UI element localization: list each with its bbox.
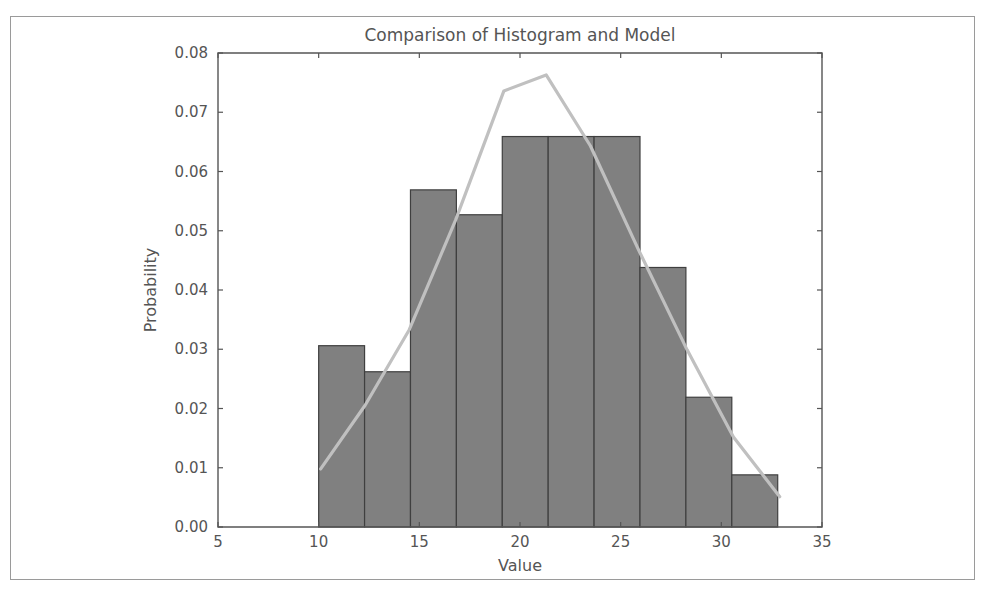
histogram-bars [319, 137, 778, 527]
x-tick-label: 35 [812, 533, 831, 551]
histogram-bar [548, 137, 594, 527]
x-tick-label: 20 [510, 533, 529, 551]
y-tick-label: 0.02 [175, 400, 208, 418]
histogram-bar [594, 137, 640, 527]
histogram-bar [410, 190, 456, 527]
histogram-bar [456, 215, 502, 527]
y-tick-label: 0.06 [175, 163, 208, 181]
y-tick-label: 0.04 [175, 281, 208, 299]
x-tick-label: 5 [213, 533, 223, 551]
y-tick-label: 0.01 [175, 459, 208, 477]
chart-plot-area: 51015202530350.000.010.020.030.040.050.0… [0, 0, 985, 593]
y-tick-label: 0.07 [175, 103, 208, 121]
y-tick-label: 0.05 [175, 222, 208, 240]
chart-title: Comparison of Histogram and Model [365, 25, 676, 45]
x-tick-label: 30 [712, 533, 731, 551]
y-tick-label: 0.00 [175, 518, 208, 536]
x-tick-label: 15 [410, 533, 429, 551]
histogram-bar [640, 267, 686, 527]
y-axis-label: Probability [141, 248, 160, 333]
histogram-bar [502, 137, 548, 527]
x-tick-label: 25 [611, 533, 630, 551]
x-axis-label: Value [498, 556, 542, 575]
x-tick-label: 10 [309, 533, 328, 551]
y-tick-label: 0.03 [175, 340, 208, 358]
y-tick-label: 0.08 [175, 44, 208, 62]
histogram-bar [686, 397, 732, 527]
